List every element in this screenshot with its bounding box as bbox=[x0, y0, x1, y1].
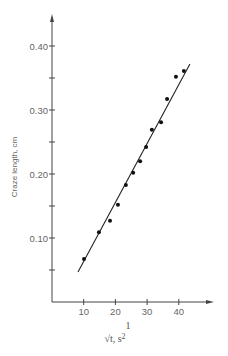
data-points bbox=[82, 69, 186, 261]
chart-plot: 0.100.200.300.40 10203040 Craze length, … bbox=[0, 0, 228, 356]
data-point bbox=[82, 257, 86, 261]
y-tick-label: 0.40 bbox=[30, 41, 49, 52]
x-tick-label: 20 bbox=[110, 306, 121, 317]
y-tick-label: 0.20 bbox=[30, 169, 49, 180]
data-point bbox=[144, 145, 148, 149]
svg-text:√t, s2: √t, s2 bbox=[104, 332, 125, 344]
data-point bbox=[182, 69, 186, 73]
data-point bbox=[138, 159, 142, 163]
x-axis-title-exponent-numerator: 1 bbox=[126, 320, 131, 331]
x-tick-label: 40 bbox=[174, 306, 185, 317]
x-tick-label: 10 bbox=[78, 306, 89, 317]
data-point bbox=[124, 183, 128, 187]
x-axis-title: √t, s2 1 bbox=[104, 320, 130, 344]
data-point bbox=[97, 230, 101, 234]
data-point bbox=[131, 171, 135, 175]
x-axis-title-exponent: 2 bbox=[122, 332, 126, 341]
data-point bbox=[116, 203, 120, 207]
y-ticks: 0.100.200.300.40 bbox=[30, 41, 56, 271]
y-tick-label: 0.10 bbox=[30, 233, 49, 244]
y-tick-label: 0.30 bbox=[30, 105, 49, 116]
data-point bbox=[108, 219, 112, 223]
data-point bbox=[150, 128, 154, 132]
y-axis-title: Craze length, cm bbox=[10, 136, 19, 197]
x-axis-title-main: √t, s bbox=[104, 333, 121, 344]
fit-line-segment bbox=[78, 64, 190, 272]
y-axis-arrow-icon bbox=[50, 14, 54, 22]
fit-line bbox=[78, 64, 190, 272]
data-point bbox=[159, 120, 163, 124]
x-tick-label: 30 bbox=[142, 306, 153, 317]
data-point bbox=[165, 97, 169, 101]
data-point bbox=[174, 75, 178, 79]
axes bbox=[50, 14, 214, 304]
x-axis-arrow-icon bbox=[206, 300, 214, 304]
